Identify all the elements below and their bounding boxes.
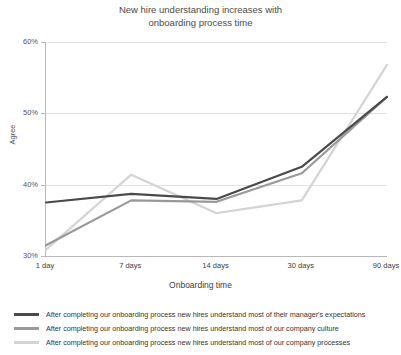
chart-legend: After completing our onboarding process …: [14, 308, 394, 350]
legend-item[interactable]: After completing our onboarding process …: [14, 336, 394, 348]
chart-root: New hire understanding increases with on…: [0, 0, 401, 355]
legend-swatch-icon: [14, 313, 39, 316]
legend-swatch-icon: [14, 327, 39, 330]
y-axis-tick-label: 40%: [4, 180, 38, 189]
legend-item[interactable]: After completing our onboarding process …: [14, 322, 394, 334]
legend-item[interactable]: After completing our onboarding process …: [14, 308, 394, 320]
x-axis-tick-label: 1 day: [10, 261, 80, 270]
legend-item-label: After completing our onboarding process …: [46, 324, 339, 333]
legend-item-label: After completing our onboarding process …: [46, 310, 365, 319]
plot-area: [45, 42, 387, 257]
y-axis-tick-label: 60%: [4, 37, 38, 46]
legend-item-label: After completing our onboarding process …: [46, 338, 350, 347]
y-axis-tick-label: 50%: [4, 108, 38, 117]
y-axis-tick-label: 30%: [4, 251, 38, 260]
x-axis-tick-label: 90 days: [351, 261, 401, 270]
x-axis-tick-label: 7 days: [95, 261, 165, 270]
series-line: [46, 65, 387, 250]
series-line: [46, 97, 387, 203]
series-lines: [46, 42, 387, 256]
x-axis-tick-label: 30 days: [266, 261, 336, 270]
chart-title: New hire understanding increases with on…: [0, 3, 401, 29]
x-axis-label: Onboarding time: [0, 280, 401, 290]
x-axis-tick-label: 14 days: [181, 261, 251, 270]
series-line: [46, 97, 387, 245]
legend-swatch-icon: [14, 341, 39, 344]
